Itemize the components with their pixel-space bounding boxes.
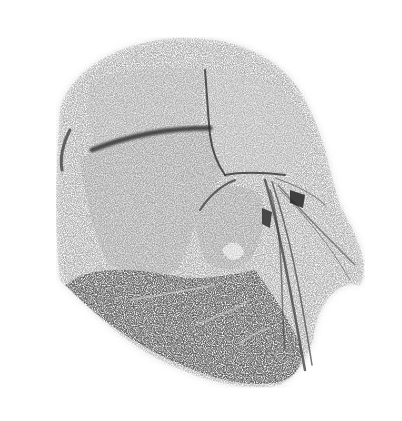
anatomical-sketch bbox=[0, 0, 402, 421]
stipple-overlay bbox=[56, 38, 364, 387]
